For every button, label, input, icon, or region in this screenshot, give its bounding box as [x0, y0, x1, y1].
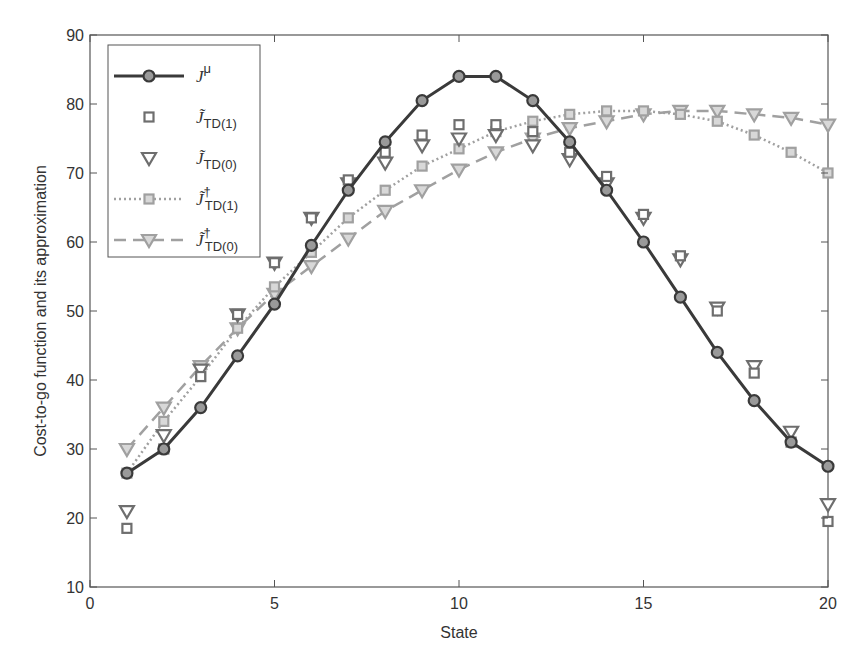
x-tick-label: 15: [635, 595, 653, 612]
square-marker: [159, 417, 168, 426]
circle-marker: [749, 395, 760, 406]
circle-marker: [675, 292, 686, 303]
circle-marker: [490, 71, 501, 82]
circle-marker: [195, 402, 206, 413]
square-marker: [602, 172, 611, 181]
square-marker: [418, 131, 427, 140]
x-axis-label: State: [440, 624, 477, 641]
square-marker: [233, 310, 242, 319]
circle-marker: [121, 468, 132, 479]
y-tick-label: 10: [66, 579, 84, 596]
square-marker: [639, 210, 648, 219]
square-marker: [344, 213, 353, 222]
square-marker: [233, 324, 242, 333]
circle-marker: [786, 437, 797, 448]
square-marker: [381, 186, 390, 195]
square-marker: [787, 148, 796, 157]
circle-marker: [417, 95, 428, 106]
circle-marker: [380, 136, 391, 147]
y-tick-label: 60: [66, 234, 84, 251]
square-marker: [145, 195, 154, 204]
square-marker: [750, 369, 759, 378]
square-marker: [307, 213, 316, 222]
square-marker: [676, 110, 685, 119]
y-tick-label: 30: [66, 441, 84, 458]
circle-marker: [638, 237, 649, 248]
x-tick-label: 10: [450, 595, 468, 612]
circle-marker: [269, 299, 280, 310]
square-marker: [528, 117, 537, 126]
circle-marker: [232, 350, 243, 361]
y-tick-label: 20: [66, 510, 84, 527]
square-marker: [270, 258, 279, 267]
square-marker: [344, 175, 353, 184]
circle-marker: [158, 444, 169, 455]
square-marker: [750, 131, 759, 140]
square-marker: [455, 120, 464, 129]
x-tick-label: 20: [819, 595, 837, 612]
square-marker: [713, 307, 722, 316]
square-marker: [565, 148, 574, 157]
y-axis-label: Cost-to-go function and its approximatio…: [32, 165, 49, 457]
square-marker: [145, 113, 154, 122]
circle-marker: [454, 71, 465, 82]
y-tick-label: 90: [66, 27, 84, 44]
square-marker: [196, 372, 205, 381]
x-tick-label: 5: [270, 595, 279, 612]
circle-marker: [343, 185, 354, 196]
square-marker: [676, 251, 685, 260]
square-marker: [602, 106, 611, 115]
y-tick-label: 80: [66, 96, 84, 113]
circle-marker: [527, 95, 538, 106]
circle-marker: [823, 461, 834, 472]
square-marker: [528, 127, 537, 136]
circle-marker: [564, 136, 575, 147]
legend: JμJ̃TD(1)J̃TD(0)J̃†TD(1)J̃†TD(0): [108, 45, 260, 257]
square-marker: [491, 120, 500, 129]
square-marker: [713, 117, 722, 126]
square-marker: [122, 524, 131, 533]
circle-marker: [144, 71, 155, 82]
square-marker: [270, 282, 279, 291]
y-tick-label: 70: [66, 165, 84, 182]
y-tick-label: 50: [66, 303, 84, 320]
y-tick-label: 40: [66, 372, 84, 389]
square-marker: [565, 110, 574, 119]
circle-marker: [601, 185, 612, 196]
x-tick-label: 0: [86, 595, 95, 612]
square-marker: [418, 162, 427, 171]
chart: 05101520102030405060708090 State Cost-to…: [0, 0, 866, 666]
square-marker: [639, 106, 648, 115]
circle-marker: [712, 347, 723, 358]
square-marker: [381, 148, 390, 157]
circle-marker: [306, 240, 317, 251]
